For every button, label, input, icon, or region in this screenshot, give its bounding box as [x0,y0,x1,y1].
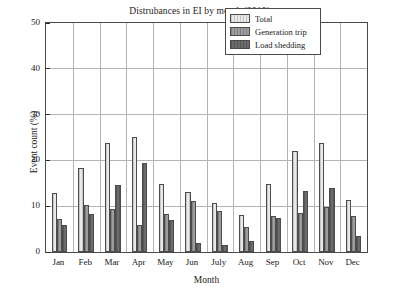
y-tick-mark [46,68,50,69]
x-tick-label: Jan [52,257,64,267]
y-tick-label: 50 [14,17,40,27]
y-tick-label: 10 [14,200,40,210]
x-tick-label: Apr [132,257,146,267]
x-tick-label: Dec [345,257,360,267]
bar [249,241,254,252]
x-tick-label: Mar [104,257,119,267]
chart-figure: Distrubances in EI by month (2010) Event… [0,0,399,295]
bar [222,245,227,252]
gridline-vertical [126,23,127,252]
chart-legend: TotalGeneration tripLoad shedding [225,8,321,55]
x-tick-label: Jun [186,257,199,267]
bar [169,220,174,252]
legend-item: Load shedding [230,38,316,51]
y-tick-label: 20 [14,154,40,164]
x-axis-label: Month [45,275,368,285]
bar [62,225,67,252]
bar [276,218,281,252]
y-axis-label: Event count (%) [29,82,39,202]
plot-area [45,22,368,253]
gridline-vertical [207,23,208,252]
x-tick-label: Aug [238,257,254,267]
legend-item: Generation trip [230,25,316,38]
gridline-vertical [233,23,234,252]
chart-title: Distrubances in EI by month (2010) [0,6,399,16]
legend-label: Generation trip [255,27,307,37]
legend-swatch [230,27,250,36]
gridline-vertical [73,23,74,252]
x-tick-label: May [157,257,174,267]
y-tick-label: 0 [14,246,40,256]
gridline-vertical [153,23,154,252]
bar [115,185,120,252]
bar [142,163,147,252]
bar [89,214,94,252]
gridline-vertical [260,23,261,252]
legend-label: Total [255,14,272,24]
y-tick-mark [46,160,50,161]
y-tick-label: 40 [14,63,40,73]
y-tick-mark [46,252,50,253]
legend-item: Total [230,12,316,25]
legend-swatch [230,40,250,49]
gridline-vertical [287,23,288,252]
bar [303,191,308,252]
legend-label: Load shedding [255,40,305,50]
x-tick-label: Feb [78,257,92,267]
y-tick-label: 30 [14,109,40,119]
x-tick-label: Sep [266,257,280,267]
bar [329,188,334,252]
bar [196,243,201,252]
gridline-vertical [340,23,341,252]
bar [356,236,361,252]
y-tick-mark [46,114,50,115]
y-tick-mark [46,23,50,24]
gridline-vertical [314,23,315,252]
x-tick-label: July [211,257,226,267]
x-tick-label: Nov [318,257,334,267]
y-tick-mark [46,206,50,207]
gridline-vertical [100,23,101,252]
x-tick-label: Oct [293,257,306,267]
legend-swatch [230,14,250,23]
gridline-vertical [180,23,181,252]
